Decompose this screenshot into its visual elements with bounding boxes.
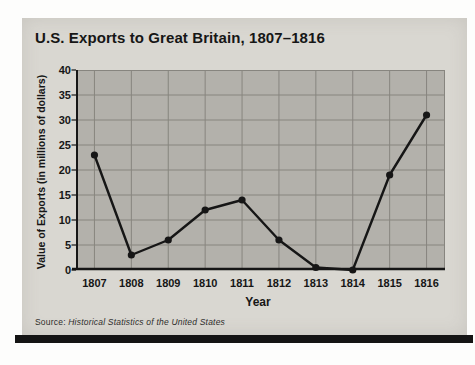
x-axis-title: Year (245, 295, 270, 309)
y-tick-label: 10 (38, 213, 71, 227)
data-point (275, 236, 282, 243)
x-tick-label: 1816 (414, 277, 438, 289)
y-tick-label: 5 (38, 238, 71, 252)
y-tick-label: 30 (38, 113, 71, 127)
y-tick-label: 40 (38, 63, 71, 77)
x-tick-label: 1815 (377, 277, 401, 289)
chart-title: U.S. Exports to Great Britain, 1807–1816 (35, 29, 325, 46)
x-tick-label: 1812 (267, 277, 291, 289)
data-line (94, 115, 426, 270)
source-citation: Historical Statistics of the United Stat… (68, 317, 225, 327)
y-tick-label: 20 (38, 163, 71, 177)
x-tick-label: 1810 (193, 277, 217, 289)
plot-area (76, 70, 445, 270)
x-tick-label: 1814 (341, 277, 365, 289)
source-label: Source: (35, 317, 68, 327)
data-point (165, 236, 172, 243)
data-point (312, 264, 319, 271)
x-tick-label: 1807 (82, 277, 106, 289)
textbook-chart-page: U.S. Exports to Great Britain, 1807–1816… (0, 0, 475, 365)
data-point (202, 206, 209, 213)
x-tick-label: 1811 (230, 277, 254, 289)
y-tick-label: 15 (38, 188, 71, 202)
data-series (91, 111, 430, 273)
y-tick-label: 35 (38, 88, 71, 102)
data-point (386, 171, 393, 178)
bottom-rule (15, 335, 473, 343)
data-point (238, 196, 245, 203)
grid-lines (76, 70, 445, 270)
x-tick-label: 1809 (156, 277, 180, 289)
source-note: Source: Historical Statistics of the Uni… (35, 317, 225, 327)
x-tick-label: 1813 (304, 277, 328, 289)
line-chart-canvas (76, 70, 445, 270)
data-point (128, 251, 135, 258)
y-tick-label: 25 (38, 138, 71, 152)
y-tick-label: 0 (38, 263, 71, 277)
data-point (349, 266, 356, 273)
x-tick-label: 1808 (119, 277, 143, 289)
data-point (423, 111, 430, 118)
data-point (91, 151, 98, 158)
